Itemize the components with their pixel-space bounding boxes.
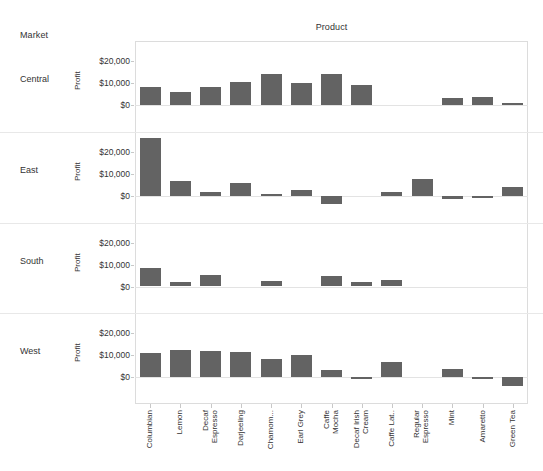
x-axis-tickmark [211, 404, 212, 408]
y-axis-tick-label: $0 [78, 372, 130, 382]
category-label-line1: Chamom... [267, 410, 276, 471]
x-axis-tickmark [392, 404, 393, 408]
bar[interactable] [140, 353, 161, 378]
y-axis-tickmark [131, 287, 134, 288]
bar[interactable] [381, 362, 402, 377]
bar[interactable] [291, 355, 312, 377]
bar[interactable] [472, 97, 493, 105]
zero-baseline [135, 105, 528, 106]
bar[interactable] [381, 280, 402, 287]
y-axis-tick-label: $10,000 [78, 350, 130, 360]
category-label-line1: Amaretto [479, 410, 488, 471]
y-axis-tickmark [131, 152, 134, 153]
category-label-line1: Earl Grey [297, 410, 306, 471]
y-axis-tick-label: $20,000 [78, 147, 130, 157]
bar[interactable] [351, 282, 372, 286]
category-label-line1: Lemon [176, 410, 185, 471]
bar[interactable] [170, 350, 191, 378]
market-row-label: West [20, 346, 40, 356]
bar[interactable] [200, 351, 221, 378]
y-axis-tick-label: $20,000 [78, 328, 130, 338]
bar[interactable] [230, 183, 251, 196]
bar[interactable] [442, 369, 463, 377]
bar[interactable] [140, 138, 161, 196]
bar[interactable] [170, 92, 191, 105]
category-axis: ColumbianLemonDecafEspressoDarjeelingCha… [135, 404, 528, 471]
bar[interactable] [261, 359, 282, 377]
bar[interactable] [442, 196, 463, 200]
bar[interactable] [261, 194, 282, 196]
y-axis-tick-label: $20,000 [78, 56, 130, 66]
category-label: Amaretto [479, 410, 488, 471]
bar[interactable] [321, 276, 342, 286]
x-axis-tickmark [362, 404, 363, 408]
category-label: Chamom... [267, 410, 276, 471]
category-label-line2: Cream [361, 410, 370, 471]
category-label-line1: Decaf [202, 410, 211, 471]
y-axis-tick-label: $10,000 [78, 260, 130, 270]
x-axis-tickmark [452, 404, 453, 408]
bar[interactable] [321, 74, 342, 105]
category-label: DecafEspresso [202, 410, 219, 471]
y-axis-tickmark [131, 377, 134, 378]
bar[interactable] [261, 74, 282, 105]
x-axis-tickmark [180, 404, 181, 408]
y-axis-tickmark [131, 355, 134, 356]
bar[interactable] [381, 192, 402, 196]
market-panel [135, 224, 528, 313]
bar[interactable] [200, 87, 221, 105]
bar[interactable] [230, 352, 251, 377]
y-axis-tickmark [131, 83, 134, 84]
bar[interactable] [261, 281, 282, 287]
category-label: CaffeMocha [323, 410, 340, 471]
y-axis-tick-label: $0 [78, 100, 130, 110]
y-axis-tickmark [131, 174, 134, 175]
x-axis-tickmark [483, 404, 484, 408]
y-axis-tick-label: $20,000 [78, 238, 130, 248]
category-label: Green Tea [509, 410, 518, 471]
x-axis-tickmark [150, 404, 151, 408]
bar[interactable] [351, 377, 372, 379]
category-label-line2: Mocha [331, 410, 340, 471]
bar[interactable] [472, 377, 493, 379]
category-label-line1: Columbian [146, 410, 155, 471]
market-panel [135, 42, 528, 131]
category-label: Darjeeling [237, 410, 246, 471]
bar[interactable] [291, 83, 312, 105]
market-row-label: South [20, 256, 44, 266]
category-label-line1: Green Tea [509, 410, 518, 471]
market-row-label: Central [20, 74, 49, 84]
y-axis-tickmark [131, 243, 134, 244]
market-panel [135, 314, 528, 403]
bar[interactable] [502, 377, 523, 386]
bar[interactable] [472, 196, 493, 198]
x-axis-tickmark [422, 404, 423, 408]
category-label: Mint [448, 410, 457, 471]
y-axis-tickmark [131, 105, 134, 106]
bar[interactable] [412, 179, 433, 195]
row-field-label: Market [20, 30, 48, 40]
category-label: Earl Grey [297, 410, 306, 471]
category-label-line1: Mint [448, 410, 457, 471]
bar[interactable] [200, 275, 221, 287]
bar[interactable] [170, 181, 191, 196]
bar[interactable] [140, 268, 161, 286]
bar[interactable] [140, 87, 161, 105]
y-axis-tick-label: $0 [78, 282, 130, 292]
market-panel [135, 133, 528, 222]
bar[interactable] [230, 82, 251, 105]
bar[interactable] [170, 282, 191, 286]
bar[interactable] [291, 190, 312, 196]
bar[interactable] [200, 192, 221, 196]
y-axis-tickmark [131, 333, 134, 334]
x-axis-tickmark [271, 404, 272, 408]
bar[interactable] [351, 85, 372, 105]
bar[interactable] [321, 370, 342, 377]
category-label-line1: Caffe Lat.. [388, 410, 397, 471]
bar[interactable] [502, 187, 523, 196]
category-label: RegularEspresso [413, 410, 430, 471]
bar[interactable] [502, 103, 523, 105]
bar[interactable] [442, 98, 463, 105]
column-field-label: Product [135, 22, 528, 32]
bar[interactable] [321, 196, 342, 204]
